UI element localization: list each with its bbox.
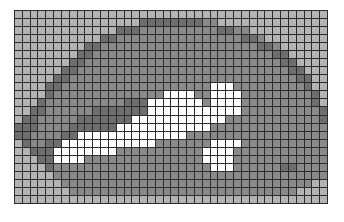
mosaic-cell [117, 11, 124, 18]
mosaic-cell [125, 196, 132, 203]
mosaic-cell [156, 164, 163, 171]
mosaic-cell [85, 156, 92, 163]
mosaic-cell [85, 27, 92, 34]
mosaic-cell [156, 35, 163, 42]
mosaic-cell [109, 116, 116, 123]
mosaic-cell [273, 35, 280, 42]
mosaic-cell [23, 172, 30, 179]
mosaic-cell [289, 51, 296, 58]
mosaic-cell [109, 27, 116, 34]
mosaic-cell [38, 27, 45, 34]
mosaic-cell [164, 140, 171, 147]
mosaic-cell [179, 35, 186, 42]
mosaic-cell [38, 156, 45, 163]
mosaic-cell [156, 83, 163, 90]
mosaic-cell [70, 67, 77, 74]
mosaic-cell [258, 67, 265, 74]
mosaic-cell [23, 99, 30, 106]
mosaic-cell [31, 132, 38, 139]
mosaic-cell [234, 83, 241, 90]
mosaic-cell [211, 51, 218, 58]
mosaic-cell [273, 124, 280, 131]
mosaic-cell [265, 116, 272, 123]
mosaic-cell [234, 99, 241, 106]
mosaic-cell [85, 99, 92, 106]
mosaic-cell [70, 107, 77, 114]
mosaic-cell [78, 148, 85, 155]
mosaic-cell [211, 180, 218, 187]
mosaic-cell [171, 188, 178, 195]
mosaic-cell [171, 180, 178, 187]
mosaic-cell [218, 91, 225, 98]
mosaic-cell [195, 35, 202, 42]
mosaic-cell [117, 91, 124, 98]
mosaic-cell [258, 75, 265, 82]
mosaic-cell [289, 164, 296, 171]
mosaic-cell [101, 11, 108, 18]
mosaic-cell [218, 132, 225, 139]
mosaic-cell [320, 124, 327, 131]
mosaic-cell [273, 67, 280, 74]
mosaic-cell [281, 51, 288, 58]
mosaic-cell [54, 132, 61, 139]
mosaic-image-canvas [0, 0, 344, 222]
mosaic-cell [258, 180, 265, 187]
mosaic-cell [23, 164, 30, 171]
mosaic-cell [117, 99, 124, 106]
mosaic-cell [15, 67, 22, 74]
mosaic-cell [265, 140, 272, 147]
mosaic-cell [320, 91, 327, 98]
mosaic-cell [15, 19, 22, 26]
mosaic-cell [109, 172, 116, 179]
mosaic-cell [164, 132, 171, 139]
mosaic-cell [289, 188, 296, 195]
mosaic-cell [140, 27, 147, 34]
mosaic-cell [250, 83, 257, 90]
mosaic-cell [265, 27, 272, 34]
mosaic-cell [312, 180, 319, 187]
mosaic-cell [195, 27, 202, 34]
mosaic-cell [179, 11, 186, 18]
mosaic-cell [226, 51, 233, 58]
mosaic-cell [46, 116, 53, 123]
mosaic-cell [46, 91, 53, 98]
mosaic-cell [297, 140, 304, 147]
mosaic-cell [109, 140, 116, 147]
mosaic-cell [93, 75, 100, 82]
mosaic-cell [320, 43, 327, 50]
mosaic-cell [54, 180, 61, 187]
mosaic-cell [320, 19, 327, 26]
mosaic-cell [140, 99, 147, 106]
mosaic-cell [258, 35, 265, 42]
mosaic-cell [305, 140, 312, 147]
mosaic-cell [289, 27, 296, 34]
mosaic-cell [281, 75, 288, 82]
mosaic-cell [250, 51, 257, 58]
mosaic-cell [258, 107, 265, 114]
mosaic-cell [211, 27, 218, 34]
mosaic-cell [117, 188, 124, 195]
mosaic-cell [23, 19, 30, 26]
mosaic-cell [171, 172, 178, 179]
mosaic-cell [31, 116, 38, 123]
mosaic-cell [70, 43, 77, 50]
mosaic-cell [258, 148, 265, 155]
mosaic-cell [101, 172, 108, 179]
mosaic-cell [258, 99, 265, 106]
mosaic-cell [78, 116, 85, 123]
mosaic-cell [258, 188, 265, 195]
mosaic-cell [203, 164, 210, 171]
mosaic-cell [289, 140, 296, 147]
pixel-mosaic-grid[interactable] [14, 10, 328, 204]
mosaic-cell [226, 124, 233, 131]
mosaic-cell [54, 164, 61, 171]
mosaic-cell [171, 156, 178, 163]
mosaic-cell [132, 124, 139, 131]
mosaic-cell [78, 75, 85, 82]
mosaic-cell [23, 67, 30, 74]
mosaic-cell [226, 164, 233, 171]
mosaic-cell [258, 19, 265, 26]
mosaic-cell [218, 172, 225, 179]
mosaic-cell [125, 99, 132, 106]
mosaic-cell [305, 99, 312, 106]
